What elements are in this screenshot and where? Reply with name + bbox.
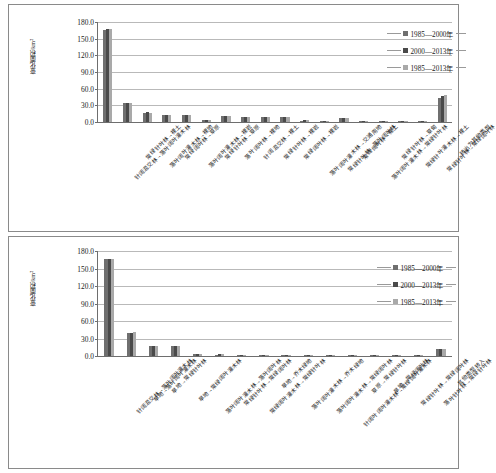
bar xyxy=(332,355,335,356)
bar xyxy=(129,103,132,122)
bar xyxy=(354,355,357,356)
bar-group xyxy=(255,22,275,122)
bar xyxy=(442,349,445,356)
y-tick-label: 150.0 xyxy=(54,34,94,43)
legend-trailing-line xyxy=(446,284,456,285)
bar-group xyxy=(209,251,231,356)
y-axis-title-top: 变化面积/km² xyxy=(29,39,43,74)
x-axis-label: 旱地→落叶阔叶灌木林 xyxy=(152,357,198,403)
bar-group xyxy=(120,251,142,356)
y-axis-title-bottom: 变化面积/km² xyxy=(29,271,43,306)
y-tick-label: 90.0 xyxy=(54,299,94,308)
bar-group xyxy=(231,251,253,356)
bar-group xyxy=(98,22,118,122)
y-tick-label: 0.0 xyxy=(54,118,94,127)
bar-group xyxy=(137,22,157,122)
bar-group xyxy=(157,22,177,122)
legend-trailing-line xyxy=(456,50,466,51)
bar-group xyxy=(341,251,363,356)
bar xyxy=(424,121,427,122)
bar-group xyxy=(142,251,164,356)
bar-group xyxy=(319,251,341,356)
bar xyxy=(365,121,368,122)
legend-leader-line xyxy=(377,284,391,285)
legend-trailing-line xyxy=(456,33,466,34)
legend-item: 2000—2013年 xyxy=(387,42,466,59)
legend-label: 2000—2013年 xyxy=(411,46,454,56)
plot-wrapper-top: 变化面积/km² 0.030.060.090.0120.0150.0180.0 … xyxy=(9,5,458,231)
chart-panel-top: 变化面积/km² 0.030.060.090.0120.0150.0180.0 … xyxy=(8,4,459,232)
bar-group xyxy=(177,22,197,122)
legend-label: 1985—2013年 xyxy=(411,63,454,73)
bar xyxy=(345,118,348,122)
bar xyxy=(267,117,270,122)
bar-group xyxy=(334,22,354,122)
bar xyxy=(247,117,250,122)
y-tick-label: 120.0 xyxy=(54,282,94,291)
bar xyxy=(155,346,158,356)
bar xyxy=(168,115,171,122)
legend-item: 1985—2000年 xyxy=(377,259,456,276)
y-tick-label: 180.0 xyxy=(54,247,94,256)
legend-leader-line xyxy=(387,33,401,34)
legend-leader-line xyxy=(377,267,391,268)
bar xyxy=(420,355,423,356)
bar xyxy=(398,355,401,356)
bar xyxy=(326,121,329,122)
bar-group xyxy=(275,251,297,356)
bar xyxy=(310,355,313,356)
legend-label: 1985—2000年 xyxy=(401,263,444,273)
bar xyxy=(265,355,268,356)
bar xyxy=(404,121,407,122)
legend-leader-line xyxy=(377,301,391,302)
bar xyxy=(286,117,289,122)
legend-swatch xyxy=(393,265,398,270)
x-axis-label: 落叶针叶林→常绿针叶林 xyxy=(442,357,492,407)
bar xyxy=(376,355,379,356)
legend-item: 1985—2013年 xyxy=(377,293,456,310)
bar xyxy=(243,355,246,356)
legend-trailing-line xyxy=(446,267,456,268)
legend-label: 1985—2000年 xyxy=(411,29,454,39)
bar xyxy=(177,346,180,356)
legend-label: 2000—2013年 xyxy=(401,280,444,290)
legend-leader-line xyxy=(387,67,401,68)
bar-group xyxy=(297,251,319,356)
y-tick-label: 60.0 xyxy=(54,84,94,93)
bar xyxy=(149,113,152,123)
legend-leader-line xyxy=(387,50,401,51)
bar xyxy=(227,116,230,122)
bar xyxy=(199,354,202,356)
bar-group xyxy=(253,251,275,356)
y-tick-label: 180.0 xyxy=(54,18,94,27)
plot-wrapper-bottom: 变化面积/km² 0.030.060.090.0120.0150.0180.0 … xyxy=(9,237,458,468)
bar xyxy=(221,354,224,356)
legend-item: 2000—2013年 xyxy=(377,276,456,293)
y-tick-label: 120.0 xyxy=(54,51,94,60)
bar-group xyxy=(216,22,236,122)
bar-group xyxy=(236,22,256,122)
bar xyxy=(111,259,114,356)
legend-swatch xyxy=(393,282,398,287)
bar xyxy=(385,121,388,122)
bar xyxy=(444,95,447,122)
x-axis-label: 针阔混交林→裸土 xyxy=(263,123,301,161)
bar xyxy=(188,115,191,122)
y-tick-label: 30.0 xyxy=(54,334,94,343)
bar-group xyxy=(275,22,295,122)
y-tick-label: 150.0 xyxy=(54,264,94,273)
legend-swatch xyxy=(403,48,408,53)
legend-top: 1985—2000年2000—2013年1985—2013年 xyxy=(387,25,466,76)
legend-item: 1985—2000年 xyxy=(387,25,466,42)
legend-bottom: 1985—2000年2000—2013年1985—2013年 xyxy=(377,259,456,310)
bar xyxy=(133,332,136,356)
bar-group xyxy=(118,22,138,122)
legend-swatch xyxy=(403,31,408,36)
y-tick-label: 60.0 xyxy=(54,317,94,326)
legend-swatch xyxy=(393,299,398,304)
bar xyxy=(109,29,112,122)
bar-group xyxy=(314,22,334,122)
x-axis-label: 常绿阔叶林→裸岩 xyxy=(302,123,340,161)
bar-group xyxy=(354,22,374,122)
